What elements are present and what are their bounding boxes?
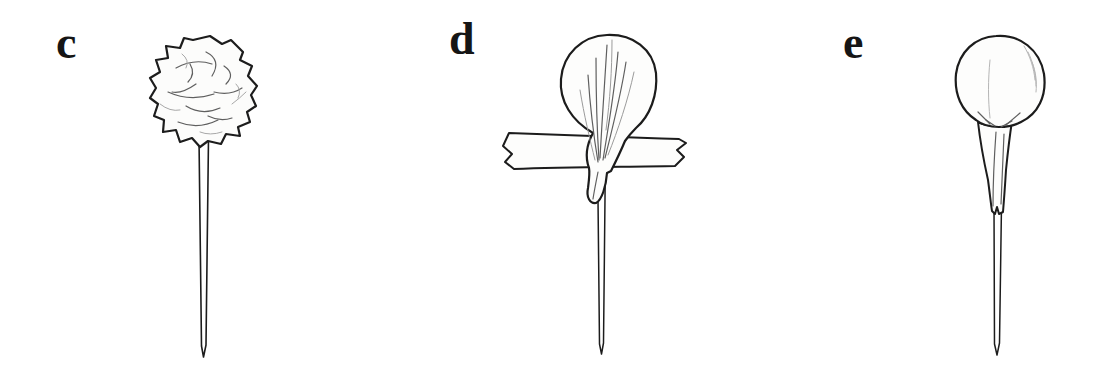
figure-panel: c d e — [0, 0, 1104, 371]
pin-stick — [199, 138, 209, 357]
gathered-sleeve — [978, 121, 1012, 214]
drawing-paper-draped-ball-with-tape — [503, 35, 686, 354]
wrapped-ball-outline — [956, 36, 1045, 127]
crumpled-ball-outline — [150, 36, 257, 147]
drawing-paper-wrapped-ball-gathered-on-pin — [956, 36, 1045, 355]
pin-stick — [994, 205, 1002, 355]
line-art-illustration — [0, 0, 1104, 371]
draped-ball-outline — [561, 35, 657, 203]
drawing-crumpled-paper-ball-on-pin — [150, 36, 257, 357]
